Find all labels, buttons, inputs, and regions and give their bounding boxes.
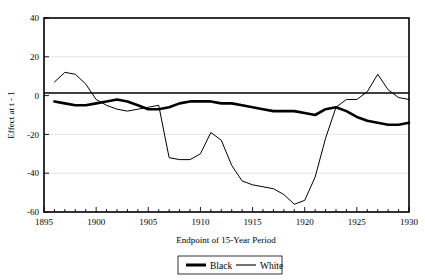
line-chart: 18951900190519101915192019251930 40200-2…	[0, 0, 425, 280]
x-tick-label: 1905	[139, 217, 158, 227]
x-tick-label: 1900	[87, 217, 106, 227]
legend-label-white: White	[260, 261, 283, 271]
x-axis-title: Endpoint of 15-Year Period	[176, 235, 276, 245]
legend: Black White	[178, 256, 283, 274]
x-axis-tick-labels: 18951900190519101915192019251930	[35, 217, 419, 227]
y-tick-label: 0	[35, 91, 40, 101]
y-tick-label: -20	[27, 130, 39, 140]
y-tick-label: 20	[30, 52, 40, 62]
x-tick-label: 1915	[244, 217, 263, 227]
y-tick-label: 40	[30, 13, 40, 23]
x-tick-label: 1925	[348, 217, 367, 227]
x-tick-label: 1910	[191, 217, 210, 227]
y-axis-title: Effect at t - 1	[6, 91, 16, 138]
y-axis-tick-labels: 40200-20-40-60	[27, 13, 40, 217]
y-tick-label: -40	[27, 168, 39, 178]
legend-label-black: Black	[210, 261, 232, 271]
series-line-black	[54, 99, 409, 124]
x-tick-label: 1920	[296, 217, 315, 227]
x-tick-label: 1930	[400, 217, 419, 227]
x-tick-label: 1895	[35, 217, 54, 227]
y-tick-label: -60	[27, 207, 39, 217]
chart-container: 18951900190519101915192019251930 40200-2…	[0, 0, 425, 280]
series-line-white	[54, 72, 409, 204]
